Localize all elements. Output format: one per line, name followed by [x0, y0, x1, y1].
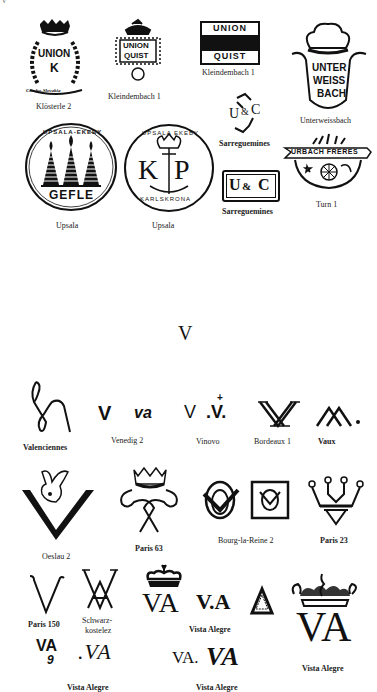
mark-oeslau-2 [20, 466, 96, 542]
mark-vista-alegre-2: VA 9 .VA [34, 641, 144, 673]
mark-text: P [174, 154, 190, 186]
mark-label: Unterweissbach [300, 116, 351, 125]
mark-vinovo: V + .V. [184, 398, 240, 426]
mark-text: .V. [206, 402, 226, 423]
mark-label: Paris 63 [135, 544, 163, 553]
mark-label: Vinovo [196, 437, 220, 446]
mark-label: Vista Alegre [189, 625, 231, 634]
mark-vista-alegre-1: VA V.A [142, 565, 282, 625]
mark-text: WEISS [313, 75, 345, 86]
crown-icon [144, 565, 184, 589]
mark-label: Kleindembach 1 [202, 68, 255, 77]
mark-label: Upsala [56, 221, 78, 230]
av-monogram-icon [313, 404, 363, 428]
mark-text: VA [296, 606, 351, 648]
mark-text: UNION [38, 48, 70, 59]
mark-text: C [258, 176, 270, 194]
mark-unterweissbach: UNTER WEISS BACH [288, 20, 370, 116]
mark-label: Paris 150 [28, 620, 60, 629]
av-monogram-icon [256, 400, 302, 428]
mark-klosterle-2: UNION K Czecho-Slovakia [22, 18, 88, 100]
mark-label: Bordeaux 1 [254, 437, 291, 446]
mark-text: U [229, 176, 241, 194]
mark-text: & [242, 180, 251, 192]
mark-venedig-2: V va [96, 404, 166, 428]
mark-bourg-la-reine-2 [200, 476, 292, 520]
mark-text: UNTER [312, 62, 346, 73]
mark-label: Valenciennes [23, 443, 67, 452]
mark-label: Paris 23 [320, 536, 348, 545]
mark-vista-alegre-3: VA. VA [172, 648, 272, 674]
mark-label: Bourg-la-Reine 2 [218, 536, 274, 545]
mark-bordeaux-1 [256, 400, 302, 428]
mark-text: UNION [202, 23, 258, 35]
mark-upsala-gefle: UPSALA-EKEBY GEFLE [25, 123, 118, 211]
mark-text: KARLSKRONA [140, 196, 191, 202]
mark-text: UNION [123, 41, 149, 50]
mark-kleindembach-1b: UNION QUIST [200, 21, 260, 65]
mark-text: BACH [317, 88, 346, 99]
mark-text: VA. [172, 648, 199, 668]
mark-text: V [98, 402, 111, 425]
v-mark-icon [28, 574, 64, 614]
mark-label: Venedig 2 [111, 436, 143, 445]
mark-text: URBACH FRERES [291, 148, 358, 155]
mark-upsala-karlskrona: UPSALA EKEBY K P KARLSKRONA [124, 124, 214, 212]
mark-text: VA [206, 642, 239, 672]
mark-sarreguemines-1: U & C [225, 92, 265, 134]
section-heading: V [178, 322, 192, 345]
mark-label: Oeslau 2 [42, 552, 70, 561]
mark-label: Vista Alegre [302, 664, 344, 673]
bv-monogram-icon [200, 476, 292, 520]
mark-text: U [229, 106, 239, 122]
mark-label: Sarreguemines [219, 139, 270, 148]
mark-turn-1: URBACH FRERES [283, 134, 373, 192]
mark-text: & [241, 106, 249, 117]
script-monogram-icon [30, 380, 75, 436]
mark-text: C [251, 102, 260, 118]
mark-label: Vaux [318, 437, 336, 446]
mark-label: Klösterle 2 [36, 102, 71, 111]
mark-label: Upsala [152, 221, 174, 230]
label-line: kostelez [82, 626, 112, 636]
mark-text: VA [142, 587, 179, 619]
mark-label: Vista Alegre [67, 683, 109, 692]
page-corner-mark: V [2, 0, 6, 4]
mark-text: 9 [47, 653, 54, 667]
mark-text: V [184, 402, 196, 423]
mark-paris-63 [114, 466, 184, 536]
mark-text: K [50, 61, 59, 75]
mark-paris-23 [308, 478, 364, 526]
mark-label: Schwarz- kostelez [82, 616, 112, 636]
mark-schwarzkostelez [82, 568, 118, 610]
mark-valenciennes [30, 380, 75, 436]
mark-vista-alegre-4: VA [290, 572, 360, 652]
mark-text: .VA [78, 639, 112, 665]
label-line: Schwarz- [82, 616, 112, 626]
mark-label: Vista Alegre [196, 683, 238, 692]
mark-text: QUIST [202, 51, 258, 63]
mark-text: UPSALA-EKEBY [43, 129, 102, 135]
mark-sarreguemines-2: U & C [222, 170, 280, 202]
mark-label: Sarreguemines [222, 207, 273, 216]
mark-text: va [134, 404, 152, 422]
mark-label: Turn 1 [316, 200, 337, 209]
crown-v-icon [308, 478, 364, 526]
mark-text: QUIST [124, 51, 148, 60]
mark-kleindembach-1a: UNION QUIST [108, 20, 168, 84]
mark-vaux [313, 404, 363, 428]
mark-label: Kleindembach 1 [108, 92, 161, 101]
mark-text: UPSALA EKEBY [142, 130, 199, 136]
mark-script: Czecho-Slovakia [26, 88, 60, 93]
mark-text: GEFLE [49, 188, 94, 202]
mark-text: K [138, 154, 158, 186]
av-monogram-icon [82, 568, 118, 610]
rabbit-v-icon [20, 466, 96, 542]
banner-wheel-icon [283, 134, 373, 192]
triangle-icon [250, 587, 274, 615]
crown-scroll-v-icon [114, 466, 184, 536]
mark-paris-150 [28, 574, 64, 614]
mark-text: V.A [196, 589, 230, 615]
